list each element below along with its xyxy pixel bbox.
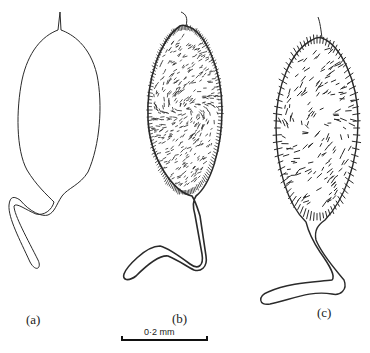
specimen-b (124, 12, 224, 280)
panel-label-c: (c) (317, 305, 331, 321)
panel-label-b: (b) (172, 311, 187, 327)
scale-bar-label: 0·2 mm (144, 327, 175, 337)
specimen-c (261, 17, 361, 304)
specimen-a (9, 12, 100, 268)
panel-label-a: (a) (26, 312, 40, 328)
specimen-figure (0, 0, 370, 353)
